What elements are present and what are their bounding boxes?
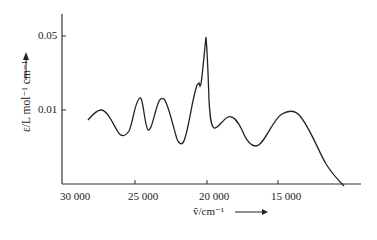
x-tick-label-30000: 30 000 bbox=[60, 190, 90, 202]
spectrum-curve bbox=[88, 37, 344, 186]
y-axis-label: ε/L mol⁻¹ cm⁻¹ bbox=[19, 61, 33, 132]
x-arrow-head-icon bbox=[262, 209, 268, 215]
x-tick-label-25000: 25 000 bbox=[128, 190, 158, 202]
y-arrow-head-icon bbox=[23, 52, 29, 60]
y-tick-label-0.01: 0.01 bbox=[38, 103, 57, 115]
y-tick-label-0.05: 0.05 bbox=[38, 29, 57, 41]
x-tick-label-15000: 15 000 bbox=[271, 190, 301, 202]
x-axis-label: ṽ/cm⁻¹ bbox=[193, 205, 224, 218]
x-tick-label-20000: 20 000 bbox=[199, 190, 229, 202]
